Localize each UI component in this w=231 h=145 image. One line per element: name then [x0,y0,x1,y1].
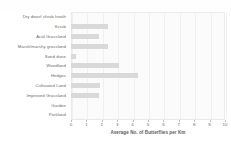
x-axis-tick-label: 5 [147,122,149,128]
bar-row [71,22,225,32]
bar [71,93,99,98]
bar [71,44,108,49]
y-axis-tick-label: Garden [51,103,66,108]
y-axis-tick-label: Hedges [51,73,66,78]
bar-row [71,61,225,71]
x-axis-tick-label: 9 [208,122,210,128]
gridline [226,13,227,119]
bar-row [71,100,225,110]
bar-row [71,41,225,51]
x-axis-tick-label: 10 [223,122,228,128]
bar-row [71,32,225,42]
x-axis-tick-label: 1 [85,122,87,128]
bar [71,83,100,88]
bar [71,34,99,39]
bar-chart-figure: Dry dwarf shrub heathScrubAcid Grassland… [0,0,231,145]
x-axis-tick-label: 0 [70,122,72,128]
y-axis-tick-label: Scrub [55,24,66,29]
x-axis-tick-label: 7 [178,122,180,128]
bar-row [71,110,225,120]
x-axis-tick-label: 6 [162,122,164,128]
x-axis-tick-label: 3 [116,122,118,128]
bar [71,63,119,68]
x-axis-tick-label: 4 [131,122,133,128]
bar-row [71,71,225,81]
bar-row [71,91,225,101]
y-axis-tick-label: Parkland [49,112,66,117]
y-axis-tick-label: Sand dune [45,54,66,59]
bar-row [71,51,225,61]
bar-row [71,81,225,91]
x-axis-title: Average No. of Butterflies per Km [71,130,225,135]
bar [71,24,108,29]
y-axis-tick-label: Improved Grassland [26,93,66,98]
y-axis-tick-label: Acid Grassland [36,34,66,39]
bars-layer [71,12,225,120]
y-axis-tick-label: Dry dwarf shrub heath [23,14,66,19]
y-axis-tick-label: Cultivated Land [35,83,66,88]
figure-header-strip [0,0,231,11]
bar-row [71,12,225,22]
bar [71,73,138,78]
x-axis-tick-label: 2 [101,122,103,128]
y-axis-category-labels: Dry dwarf shrub heathScrubAcid Grassland… [0,12,68,120]
y-axis-tick-label: Woodland [46,63,66,68]
bar [71,54,76,59]
x-axis: 012345678910 [71,120,225,130]
y-axis-tick-label: Marsh/marshy grassland [18,44,66,49]
x-axis-tick-label: 8 [193,122,195,128]
